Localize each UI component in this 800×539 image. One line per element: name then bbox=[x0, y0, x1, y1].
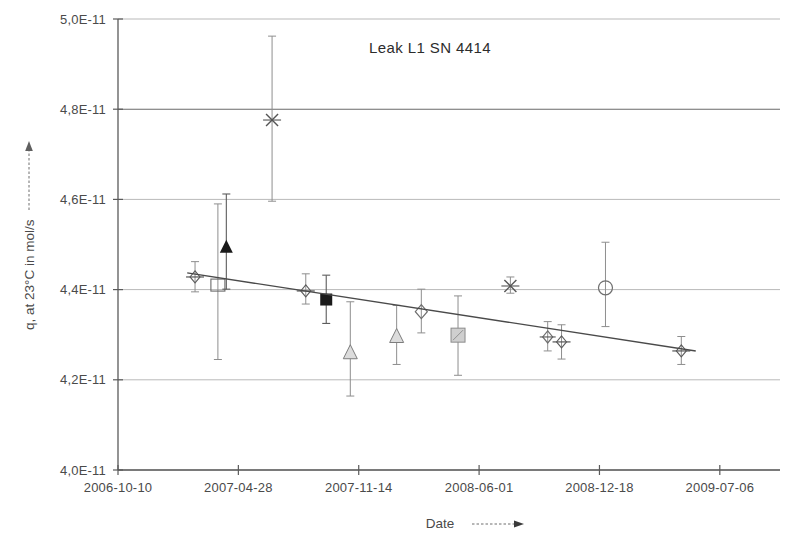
y-tick-label: 4,8E-11 bbox=[60, 102, 106, 117]
data-point bbox=[598, 242, 612, 326]
x-tick-label: 2009-07-06 bbox=[686, 480, 755, 495]
data-point bbox=[263, 36, 281, 201]
x-tick-label: 2007-11-14 bbox=[325, 480, 393, 495]
y-axis-title: q, at 23°C in mol/s bbox=[22, 219, 37, 330]
chart-container: 5,0E-114,8E-114,6E-114,4E-114,2E-114,0E-… bbox=[0, 0, 800, 539]
data-point bbox=[320, 275, 332, 323]
marker-filled-triangle bbox=[220, 240, 233, 253]
y-tick-label: 4,2E-11 bbox=[60, 372, 106, 387]
x-axis-arrow-icon bbox=[472, 520, 524, 527]
leak-rate-scatter-chart: 5,0E-114,8E-114,6E-114,4E-114,2E-114,0E-… bbox=[0, 0, 800, 539]
y-tick-label: 4,6E-11 bbox=[60, 192, 106, 207]
trend-line bbox=[187, 273, 696, 351]
data-point bbox=[540, 322, 556, 351]
marker-open-triangle bbox=[343, 345, 357, 359]
data-point bbox=[415, 289, 427, 333]
data-point bbox=[451, 296, 465, 375]
y-axis-arrow-icon bbox=[25, 141, 33, 210]
data-point bbox=[220, 194, 233, 289]
data-point bbox=[343, 302, 357, 396]
data-series bbox=[186, 36, 690, 396]
y-tick-label: 4,0E-11 bbox=[60, 463, 106, 478]
data-point bbox=[501, 277, 519, 293]
x-tick-label: 2008-12-18 bbox=[565, 480, 634, 495]
x-tick-label: 2007-04-28 bbox=[204, 480, 273, 495]
data-point bbox=[297, 274, 315, 304]
chart-title: Leak L1 SN 4414 bbox=[369, 39, 491, 56]
marker-open-triangle bbox=[390, 329, 404, 343]
data-point bbox=[211, 204, 225, 360]
x-axis-title: Date bbox=[426, 516, 455, 531]
gridlines bbox=[118, 19, 780, 470]
y-axis-ticks: 5,0E-114,8E-114,6E-114,4E-114,2E-114,0E-… bbox=[60, 12, 123, 478]
data-point bbox=[672, 337, 690, 365]
y-tick-label: 4,4E-11 bbox=[60, 282, 106, 297]
x-tick-label: 2008-06-01 bbox=[445, 480, 514, 495]
data-point bbox=[390, 305, 404, 364]
y-tick-label: 5,0E-11 bbox=[60, 12, 106, 27]
axes bbox=[118, 19, 780, 470]
data-point bbox=[186, 262, 204, 292]
x-tick-label: 2006-10-10 bbox=[84, 480, 153, 495]
